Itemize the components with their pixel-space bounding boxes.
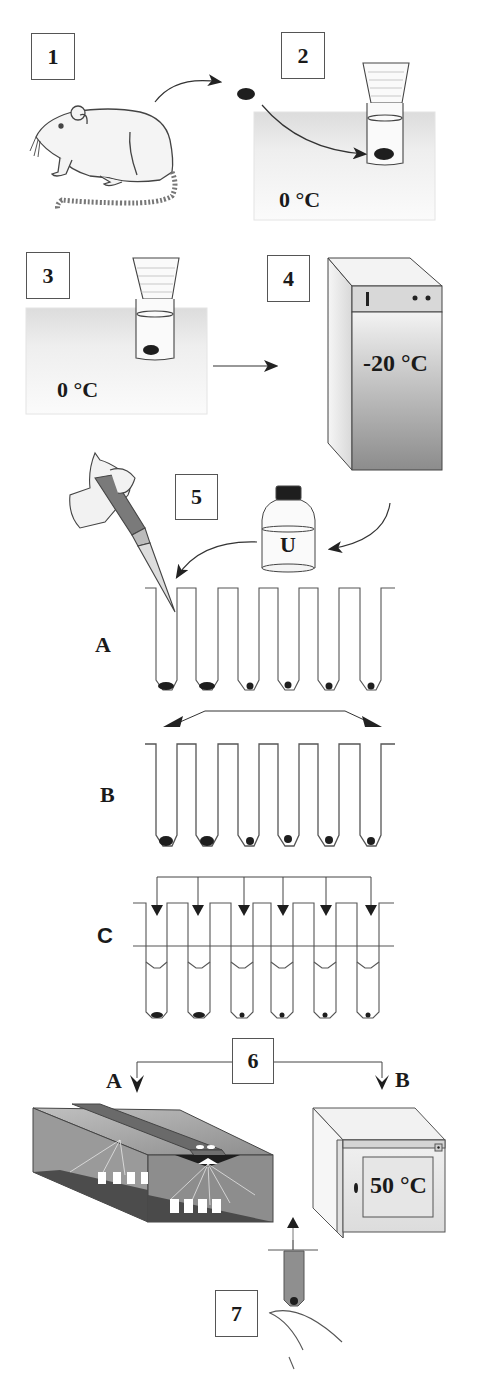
arrow-bottle-to-tubes bbox=[177, 542, 257, 577]
pipette-hand-illustration bbox=[70, 453, 175, 612]
glass-slide-arc bbox=[269, 1311, 342, 1369]
row-c-label: C bbox=[97, 923, 113, 949]
upward-arrow-icon bbox=[287, 1217, 299, 1228]
step-3-label: 3 bbox=[26, 252, 70, 299]
arrow-rat-to-tissue bbox=[155, 81, 220, 102]
tissue-sample-icon bbox=[237, 88, 255, 100]
bottle-label: U bbox=[280, 532, 296, 558]
tube-row-b bbox=[145, 744, 395, 846]
distribution-arrowheads bbox=[151, 905, 377, 916]
arrow-freezer-to-bottle bbox=[330, 503, 390, 549]
tube-step7 bbox=[268, 1250, 318, 1306]
step-2-label: 2 bbox=[281, 32, 325, 79]
row-b-label: B bbox=[100, 782, 115, 808]
pellets-row-a bbox=[158, 682, 375, 691]
distribution-bracket bbox=[157, 877, 371, 905]
ice-bath-temperature-step3: 0 °C bbox=[57, 377, 98, 403]
double-arrow bbox=[180, 711, 375, 725]
tube-row-a bbox=[145, 588, 395, 690]
pellets-row-b bbox=[159, 835, 375, 846]
oven-temperature: 50 °C bbox=[370, 1172, 427, 1199]
reagent-bottle bbox=[262, 486, 315, 572]
tissue-in-tube-icon bbox=[143, 345, 159, 355]
tube-row-c bbox=[133, 903, 394, 1018]
option-a-label: A bbox=[106, 1068, 122, 1094]
freezer-temperature: -20 °C bbox=[363, 350, 428, 377]
step-5-label: 5 bbox=[175, 474, 218, 520]
step-1-label: 1 bbox=[31, 33, 75, 80]
rat-illustration bbox=[30, 106, 175, 210]
tissue-in-tube-icon bbox=[374, 148, 394, 160]
option-b-label: B bbox=[395, 1067, 410, 1093]
row-a-label: A bbox=[95, 632, 111, 658]
step-4-label: 4 bbox=[267, 255, 310, 302]
ice-bath-temperature-step2: 0 °C bbox=[279, 187, 320, 213]
tube-step3 bbox=[133, 258, 179, 360]
pellets-row-c bbox=[151, 1012, 371, 1018]
uv-transilluminator-illustration bbox=[33, 1104, 273, 1222]
step-7-label: 7 bbox=[215, 1290, 258, 1337]
step-6-label: 6 bbox=[232, 1038, 274, 1084]
ice-bath-step3 bbox=[26, 308, 207, 414]
